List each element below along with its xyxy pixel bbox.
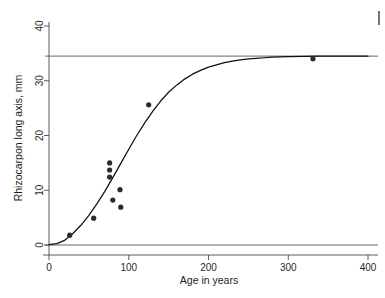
fit-curve — [49, 56, 368, 245]
data-point — [107, 175, 112, 180]
x-tick-label-0: 0 — [46, 262, 52, 273]
y-tick-label-0: 0 — [34, 242, 45, 248]
data-point — [118, 205, 123, 210]
x-tick-label-100: 100 — [120, 262, 137, 273]
x-tick-labels-group: 0100200300400 — [46, 262, 377, 273]
x-tick-label-400: 400 — [360, 262, 377, 273]
x-tick-label-200: 200 — [200, 262, 217, 273]
y-tick-label-20: 20 — [34, 130, 45, 142]
data-point — [67, 233, 72, 238]
chart-figure: 0100200300400 010203040 Age in years Rhi… — [0, 0, 385, 298]
y-tick-label-40: 40 — [34, 20, 45, 32]
data-points-group — [67, 56, 315, 238]
data-point — [107, 167, 112, 172]
y-axis-title: Rhizocarpon long axis, mm — [12, 74, 24, 201]
data-point — [146, 102, 151, 107]
data-point — [117, 187, 122, 192]
data-point — [107, 160, 112, 165]
axis-titles-group: Age in years Rhizocarpon long axis, mm — [12, 74, 238, 286]
data-point — [91, 216, 96, 221]
tick-marks-group — [44, 26, 368, 260]
y-tick-label-30: 30 — [34, 75, 45, 87]
x-tick-label-300: 300 — [280, 262, 297, 273]
y-tick-label-10: 10 — [34, 184, 45, 196]
y-tick-labels-group: 010203040 — [34, 20, 45, 248]
scatter-plot: 0100200300400 010203040 Age in years Rhi… — [0, 0, 385, 298]
fit-curve-group — [49, 56, 368, 245]
data-point — [310, 56, 315, 61]
x-axis-title: Age in years — [180, 274, 238, 286]
data-point — [110, 198, 115, 203]
